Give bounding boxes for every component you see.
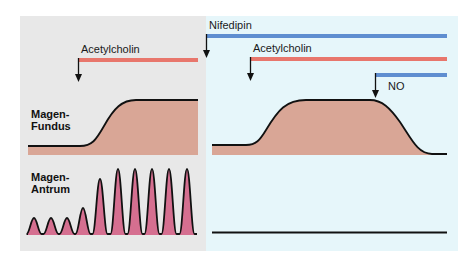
acetylcholin-label: Acetylcholin	[253, 42, 312, 54]
no-label: NO	[388, 80, 405, 92]
fundus-label-line2: Fundus	[31, 120, 71, 132]
fundus-label-line1: Magen-	[31, 108, 70, 120]
nifedipin-bar	[206, 34, 447, 38]
acetylcholin-bar	[250, 57, 447, 61]
antrum-label-line2: Antrum	[31, 183, 70, 195]
acetylcholin-label: Acetylcholin	[81, 43, 140, 55]
nifedipin-label: Nifedipin	[209, 19, 252, 31]
antrum-label-line1: Magen-	[31, 171, 70, 183]
no-bar	[375, 73, 447, 77]
acetylcholin-bar	[78, 58, 198, 62]
physiology-diagram: Acetylcholin Magen- Fundus Magen- Antrum…	[0, 0, 471, 262]
